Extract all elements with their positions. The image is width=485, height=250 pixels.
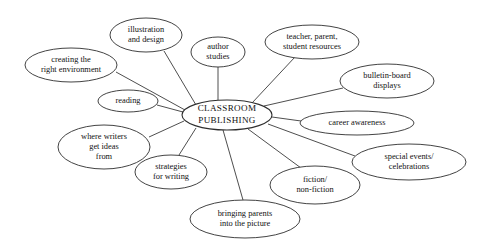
edge-classroom-publishing-to-bringing-parents-into-the-picture xyxy=(223,130,243,200)
node-label-reading: reading xyxy=(115,96,141,105)
node-label-where-writers-get-ideas-from: get ideas xyxy=(89,142,119,151)
node-label-creating-the-right-environment: right environment xyxy=(41,65,102,74)
node-where-writers-get-ideas-from[interactable]: where writersget ideasfrom xyxy=(58,125,150,169)
node-label-fiction-non-fiction: fiction/ xyxy=(303,175,328,184)
node-special-events-celebrations[interactable]: special events/celebrations xyxy=(352,144,466,180)
mind-map-canvas: illustrationand designauthorstudiesteach… xyxy=(0,0,485,250)
node-label-bringing-parents-into-the-picture: into the picture xyxy=(220,219,271,228)
node-reading[interactable]: reading xyxy=(98,90,158,112)
node-career-awareness[interactable]: career awareness xyxy=(300,111,414,135)
node-label-illustration-and-design: and design xyxy=(128,35,165,44)
edge-classroom-publishing-to-career-awareness xyxy=(272,117,301,121)
node-strategies-for-writing[interactable]: strategiesfor writing xyxy=(135,155,207,189)
node-label-strategies-for-writing: strategies xyxy=(155,162,187,171)
node-bulletin-board-displays[interactable]: bulletin-boarddisplays xyxy=(340,64,434,98)
edge-classroom-publishing-to-strategies-for-writing xyxy=(179,128,196,155)
node-label-teacher-parent-student-resources: student resources xyxy=(283,42,341,51)
edge-classroom-publishing-to-where-writers-get-ideas-from xyxy=(149,121,184,137)
node-label-classroom-publishing: CLASSROOM xyxy=(198,103,257,113)
node-label-special-events-celebrations: special events/ xyxy=(384,152,434,161)
node-label-career-awareness: career awareness xyxy=(329,118,386,127)
node-creating-the-right-environment[interactable]: creating theright environment xyxy=(25,48,117,82)
node-label-author-studies: studies xyxy=(206,52,229,61)
node-label-classroom-publishing: PUBLISHING xyxy=(198,115,256,125)
node-label-where-writers-get-ideas-from: from xyxy=(96,152,113,161)
node-label-where-writers-get-ideas-from: where writers xyxy=(81,132,127,141)
node-label-strategies-for-writing: for writing xyxy=(153,172,190,181)
mind-map-diagram: illustrationand designauthorstudiesteach… xyxy=(0,0,485,250)
node-label-author-studies: author xyxy=(207,42,229,51)
node-label-creating-the-right-environment: creating the xyxy=(51,55,91,64)
edge-classroom-publishing-to-illustration-and-design xyxy=(164,51,196,105)
node-label-bulletin-board-displays: bulletin-board xyxy=(363,71,411,80)
node-classroom-publishing[interactable]: CLASSROOMPUBLISHING xyxy=(182,100,272,130)
edge-classroom-publishing-to-bulletin-board-displays xyxy=(264,88,343,106)
edge-classroom-publishing-to-reading xyxy=(157,105,183,112)
node-author-studies[interactable]: authorstudies xyxy=(191,37,245,67)
nodes-layer: illustrationand designauthorstudiesteach… xyxy=(25,18,466,238)
node-label-special-events-celebrations: celebrations xyxy=(389,162,429,171)
node-fiction-non-fiction[interactable]: fiction/non-fiction xyxy=(270,166,360,204)
edge-classroom-publishing-to-teacher-parent-student-resources xyxy=(252,57,295,103)
node-label-teacher-parent-student-resources: teacher, parent, xyxy=(286,32,337,41)
node-label-fiction-non-fiction: non-fiction xyxy=(296,185,334,194)
edge-classroom-publishing-to-fiction-non-fiction xyxy=(248,129,301,168)
node-teacher-parent-student-resources[interactable]: teacher, parent,student resources xyxy=(265,25,359,59)
node-illustration-and-design[interactable]: illustrationand design xyxy=(110,18,182,52)
node-label-illustration-and-design: illustration xyxy=(128,25,165,34)
node-label-bulletin-board-displays: displays xyxy=(373,81,400,90)
node-label-bringing-parents-into-the-picture: bringing parents xyxy=(218,209,273,218)
node-bringing-parents-into-the-picture[interactable]: bringing parentsinto the picture xyxy=(190,200,300,238)
